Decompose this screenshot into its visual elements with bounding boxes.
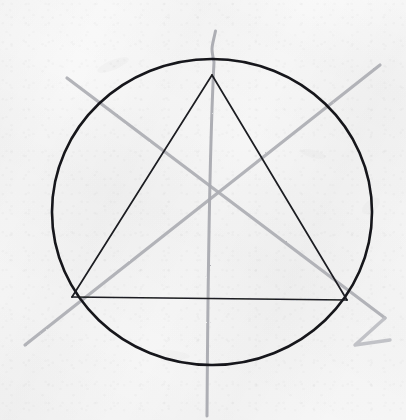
sketch-canvas bbox=[0, 0, 406, 420]
construction-line-diagonal-descending bbox=[67, 78, 385, 318]
chevron-mark-lower-right-icon bbox=[355, 318, 390, 345]
construction-line-group bbox=[25, 31, 390, 416]
geometry-drawing bbox=[0, 0, 406, 420]
construction-line-vertical-median bbox=[207, 31, 216, 416]
